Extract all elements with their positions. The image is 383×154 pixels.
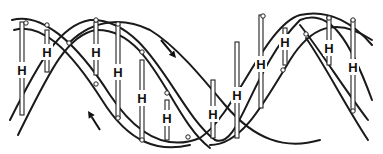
hydrogen-bond-label: H [137,91,146,106]
hydrogen-bond-label: H [91,45,100,60]
phosphate-node [327,16,331,20]
phosphate-node [94,82,98,86]
phosphate-node [116,22,120,26]
hydrogen-bond-label: H [256,57,265,72]
base-pair: H [16,22,28,115]
base-pair: H [207,80,219,138]
hydrogen-bond-label: H [324,41,333,56]
base-pair: H [255,15,267,108]
hydrogen-bond-label: H [232,88,241,103]
phosphate-node [94,18,98,22]
base-pair: H [41,30,53,72]
phosphate-node [304,32,308,36]
base-pair: H [231,42,243,138]
phosphate-node [140,138,144,142]
phosphate-node [261,14,265,18]
phosphate-node [140,50,144,54]
phosphate-node [281,68,285,72]
arrow-shaft [92,117,100,130]
base-pair: H [347,20,359,110]
phosphate-node [45,23,49,27]
hydrogen-bond-label: H [42,45,51,60]
phosphate-node [351,109,355,113]
hydrogen-bond-label: H [348,60,357,75]
phosphate-node [116,116,120,120]
direction-arrow-up [88,111,100,130]
hydrogen-bond-label: H [17,63,26,78]
phosphate-node [165,91,169,95]
strand-a-outer [10,18,372,141]
phosphate-node [24,21,28,25]
base-pair: H [112,25,124,118]
base-pair: H [161,100,173,140]
hydrogen-bond-label: H [113,65,122,80]
hydrogen-bond-label: H [208,107,217,122]
phosphate-nodes [24,14,355,142]
hydrogen-bond-label: H [280,35,289,50]
strand-d-inner [306,38,368,140]
dna-double-helix-diagram: HHHHHHHHHHHH [0,0,383,154]
hydrogen-bond-label: H [162,111,171,126]
phosphate-node [351,18,355,22]
phosphate-node [186,135,190,139]
phosphate-node [67,41,71,45]
backbone-strands [10,13,372,148]
